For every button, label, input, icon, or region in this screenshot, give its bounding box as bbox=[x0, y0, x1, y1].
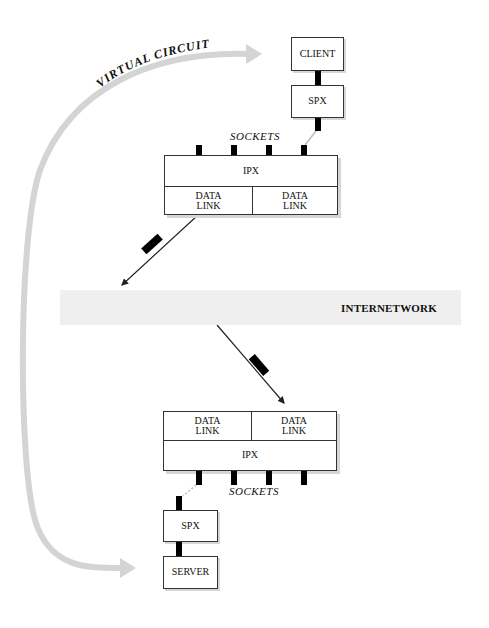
server-data-link-2-label: DATA LINK bbox=[281, 416, 307, 437]
client-spx-connector bbox=[315, 71, 321, 85]
client-box: CLIENT bbox=[291, 37, 344, 71]
server-data-link-1: DATA LINK bbox=[164, 412, 252, 441]
client-spx-label: SPX bbox=[308, 96, 326, 107]
server-data-link-2: DATA LINK bbox=[252, 412, 336, 441]
client-spx-socket-connector bbox=[315, 118, 321, 131]
client-spx-box: SPX bbox=[291, 85, 344, 118]
server-socket-3 bbox=[266, 471, 272, 485]
client-label: CLIENT bbox=[300, 49, 336, 60]
client-data-link-2: DATA LINK bbox=[253, 187, 337, 215]
svg-text:VIRTUAL CIRCUIT: VIRTUAL CIRCUIT bbox=[93, 36, 210, 90]
client-data-link-1-label: DATA LINK bbox=[196, 191, 222, 212]
server-box: SERVER bbox=[163, 556, 218, 589]
client-ipx-label: IPX bbox=[243, 166, 259, 177]
server-sockets-label: SOCKETS bbox=[229, 485, 279, 497]
client-data-link-1: DATA LINK bbox=[165, 187, 253, 215]
internetwork-label: INTERNETWORK bbox=[341, 302, 437, 314]
client-socket-2 bbox=[231, 145, 237, 155]
virtual-circuit-label: VIRTUAL CIRCUIT bbox=[93, 36, 210, 90]
server-socket-4 bbox=[301, 471, 307, 485]
client-socket-4 bbox=[301, 145, 307, 155]
client-protocol-stack: IPX DATA LINK DATA LINK bbox=[164, 155, 338, 215]
client-socket-3 bbox=[266, 145, 272, 155]
client-ipx-layer: IPX bbox=[165, 156, 337, 187]
server-socket-spx-connector bbox=[176, 496, 182, 510]
server-spx-connector bbox=[176, 542, 182, 556]
server-ipx-label: IPX bbox=[242, 450, 258, 461]
server-socket-1 bbox=[196, 471, 202, 485]
internetwork-band: INTERNETWORK bbox=[60, 290, 461, 325]
client-socket-1 bbox=[196, 145, 202, 155]
server-ipx-layer: IPX bbox=[164, 441, 336, 470]
server-spx-label: SPX bbox=[181, 521, 199, 532]
client-data-link-2-label: DATA LINK bbox=[282, 191, 308, 212]
server-protocol-stack: DATA LINK DATA LINK IPX bbox=[163, 411, 337, 471]
server-socket-2 bbox=[231, 471, 237, 485]
server-label: SERVER bbox=[172, 567, 210, 578]
server-data-link-1-label: DATA LINK bbox=[195, 416, 221, 437]
server-spx-box: SPX bbox=[163, 510, 218, 542]
client-sockets-label: SOCKETS bbox=[230, 130, 280, 142]
